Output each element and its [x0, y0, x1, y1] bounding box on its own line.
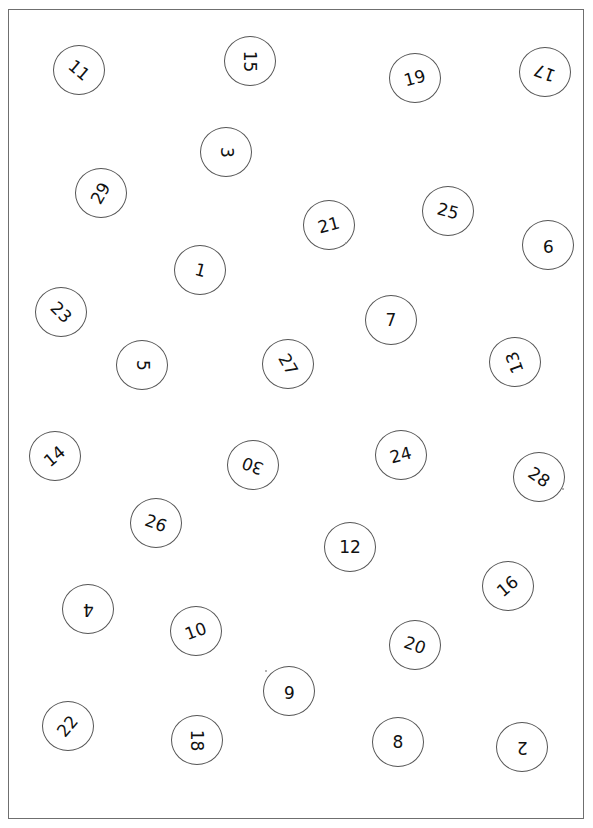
- number-circle: 30: [227, 440, 279, 490]
- number-circle: 23: [35, 287, 87, 337]
- number-circle: 27: [262, 339, 314, 389]
- circle-number-label: 28: [525, 464, 552, 490]
- number-circle: 6: [263, 666, 315, 716]
- number-circle: 4: [62, 584, 114, 634]
- number-circle: 8: [372, 717, 424, 767]
- number-circle: 19: [389, 53, 441, 103]
- number-circle: 29: [75, 168, 127, 218]
- number-circle: 26: [130, 498, 182, 548]
- number-circle: 7: [365, 295, 417, 345]
- circle-number-label: 10: [183, 619, 209, 642]
- number-circle: 20: [389, 620, 441, 670]
- speck-mark: [265, 670, 267, 672]
- circle-number-label: 18: [188, 729, 205, 751]
- circle-number-label: 9: [543, 237, 554, 254]
- circle-number-label: 19: [402, 67, 427, 89]
- number-circle: 13: [489, 337, 541, 387]
- speck-mark: [562, 488, 564, 490]
- number-circle: 15: [224, 36, 276, 86]
- circle-number-label: 22: [55, 712, 82, 740]
- number-circle: 5: [116, 340, 168, 390]
- circle-number-label: 13: [503, 349, 526, 375]
- number-circle: 2: [496, 722, 548, 772]
- number-circle: 14: [29, 431, 81, 481]
- circle-number-label: 11: [65, 57, 93, 84]
- circle-number-label: 16: [494, 573, 522, 600]
- circle-number-label: 17: [532, 60, 558, 83]
- number-circle: 17: [519, 47, 571, 97]
- number-circle: 10: [170, 606, 222, 656]
- circle-number-label: 12: [339, 539, 361, 556]
- number-circle: 3: [200, 127, 252, 177]
- number-circle: 28: [513, 452, 565, 502]
- number-circle: 22: [42, 701, 94, 751]
- number-circle: 11: [53, 45, 105, 95]
- number-circle: 24: [375, 430, 427, 480]
- number-circle: 9: [522, 220, 574, 270]
- circle-number-label: 27: [275, 350, 301, 377]
- circle-number-label: 21: [316, 214, 341, 236]
- circle-number-label: 26: [143, 511, 169, 534]
- circle-number-label: 2: [517, 739, 528, 756]
- circle-number-label: 1: [193, 260, 208, 279]
- circle-number-label: 20: [402, 633, 428, 656]
- number-circle: 18: [171, 715, 223, 765]
- circle-number-label: 29: [88, 179, 114, 206]
- number-circle: 16: [482, 561, 534, 611]
- circle-number-label: 25: [435, 200, 460, 222]
- circle-number-label: 8: [393, 734, 404, 751]
- circle-number-label: 3: [217, 147, 234, 158]
- number-circle: 21: [303, 200, 355, 250]
- number-circle: 12: [324, 522, 376, 572]
- circle-number-label: 23: [47, 298, 74, 325]
- circle-number-label: 30: [240, 453, 266, 476]
- number-circle: 1: [174, 245, 226, 295]
- circle-number-label: 7: [386, 312, 397, 329]
- circle-number-label: 24: [388, 444, 413, 466]
- circle-number-label: 4: [83, 601, 94, 618]
- circle-number-label: 5: [133, 360, 150, 371]
- circle-number-label: 14: [41, 443, 69, 470]
- circle-number-label: 15: [241, 50, 258, 72]
- circle-number-label: 6: [284, 683, 295, 700]
- speck-mark: [345, 242, 347, 244]
- number-circle: 25: [422, 186, 474, 236]
